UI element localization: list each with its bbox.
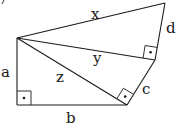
label-c: c [142,80,150,98]
label-d: d [166,19,176,37]
right-angle-marker-c [117,88,134,99]
label-a: a [1,63,10,81]
right-angle-marker-d [143,46,157,59]
segment-c [127,60,155,105]
geometry-diagram: a b c d x y z [0,0,179,134]
segment-y [17,38,155,60]
cropped-mark [2,0,4,4]
segment-d [155,3,165,60]
label-z: z [56,68,64,86]
label-x: x [91,5,100,23]
segment-z [17,38,127,105]
label-b: b [66,109,76,127]
label-y: y [92,49,102,67]
right-angle-marker-b [17,91,31,105]
